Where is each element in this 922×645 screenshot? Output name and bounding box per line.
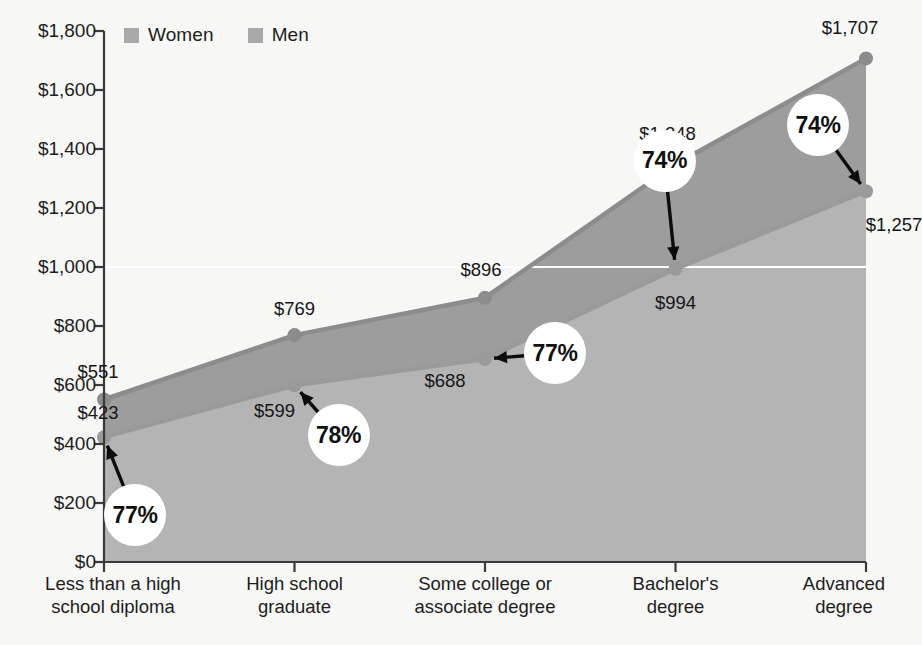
y-axis-tick-label: $1,200	[10, 197, 96, 219]
ratio-bubble: 77%	[104, 484, 166, 546]
legend-swatch-women	[124, 28, 139, 43]
legend-item-men: Men	[248, 24, 309, 46]
value-label-women: $994	[655, 292, 696, 314]
x-axis-tick-label: Less than a high school diploma	[45, 572, 181, 618]
value-label-men: $769	[274, 298, 315, 320]
value-label-men: $1,707	[822, 17, 879, 39]
value-label-women: $688	[424, 370, 465, 392]
x-axis-tick-labels: Less than a high school diplomaHigh scho…	[0, 570, 894, 640]
legend-label-men: Men	[272, 24, 309, 46]
y-axis-tick-label: $400	[10, 433, 96, 455]
legend-swatch-men	[248, 28, 263, 43]
legend-label-women: Women	[148, 24, 214, 46]
y-axis-ticks	[95, 31, 104, 562]
x-axis-tick-label: Advanced degree	[803, 572, 885, 618]
y-axis-tick-label: $800	[10, 315, 96, 337]
y-axis-tick-label: $1,600	[10, 79, 96, 101]
ratio-bubble: 78%	[308, 404, 370, 466]
x-axis-tick-label: Some college or associate degree	[415, 572, 556, 618]
y-axis-tick-label: $1,000	[10, 256, 96, 278]
x-axis-tick-label: High school graduate	[246, 572, 343, 618]
ratio-bubble: 74%	[787, 94, 849, 156]
y-axis-tick-labels: $1,800$1,600$1,400$1,200$1,000$800$600$4…	[0, 0, 96, 645]
value-label-women: $599	[254, 400, 295, 422]
ratio-bubble: 74%	[634, 130, 696, 192]
x-axis-tick-label: Bachelor's degree	[633, 572, 719, 618]
value-label-men: $896	[460, 259, 501, 281]
legend-item-women: Women	[124, 24, 214, 46]
chart-legend: Women Men	[124, 24, 309, 46]
value-label-men: $551	[77, 361, 118, 383]
ratio-bubble: 77%	[524, 322, 586, 384]
value-label-women: $1,257	[866, 214, 922, 236]
y-axis-tick-label: $1,800	[10, 20, 96, 42]
y-axis-tick-label: $200	[10, 492, 96, 514]
value-label-women: $423	[77, 402, 118, 424]
y-axis-tick-label: $1,400	[10, 138, 96, 160]
